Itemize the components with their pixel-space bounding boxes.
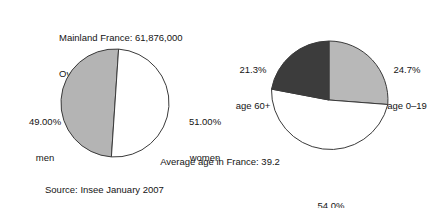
label-age-60-plus: 21.3% age 60+ — [222, 40, 284, 136]
label-age-0-19: 24.7% age 0–19 — [374, 40, 440, 136]
figure-container: Mainland France: 61,876,000 Overseas: 1,… — [0, 0, 446, 208]
label-men: 49.00% men — [14, 92, 76, 188]
age-0-19-category: age 0–19 — [374, 100, 440, 112]
pie-chart-sex — [60, 46, 170, 160]
source-note: Source: Insee January 2007 — [45, 184, 205, 196]
label-age-20-59: 54.0% age 20–59 — [288, 176, 374, 208]
age-20-59-percent: 54.0% — [288, 200, 374, 208]
pie-sex-svg — [60, 46, 170, 160]
average-age-note: Average age in France: 39.2 — [150, 156, 290, 168]
age-0-19-percent: 24.7% — [374, 64, 440, 76]
men-category: men — [14, 152, 76, 164]
age-60-plus-percent: 21.3% — [222, 64, 284, 76]
pie-slice-women — [111, 49, 169, 157]
mainland-population-line: Mainland France: 61,876,000 — [59, 32, 183, 44]
age-60-plus-category: age 60+ — [222, 100, 284, 112]
men-percent: 49.00% — [14, 116, 76, 128]
